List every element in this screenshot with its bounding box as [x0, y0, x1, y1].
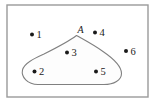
- point-4-dot: [93, 31, 97, 35]
- diagram-canvas: A 123456: [0, 0, 158, 108]
- point-2-dot: [33, 70, 37, 74]
- point-3-dot: [65, 51, 69, 55]
- point-2-label: 2: [39, 66, 44, 77]
- point-1-dot: [30, 33, 34, 37]
- point-5-dot: [94, 70, 98, 74]
- point-6-label: 6: [131, 46, 136, 57]
- point-3-label: 3: [72, 47, 77, 58]
- set-a-label: A: [76, 24, 84, 35]
- set-diagram-figure: A 123456: [0, 0, 158, 108]
- point-1-label: 1: [37, 29, 42, 40]
- point-5-label: 5: [101, 66, 106, 77]
- point-6-dot: [124, 49, 128, 53]
- point-4-label: 4: [100, 27, 106, 38]
